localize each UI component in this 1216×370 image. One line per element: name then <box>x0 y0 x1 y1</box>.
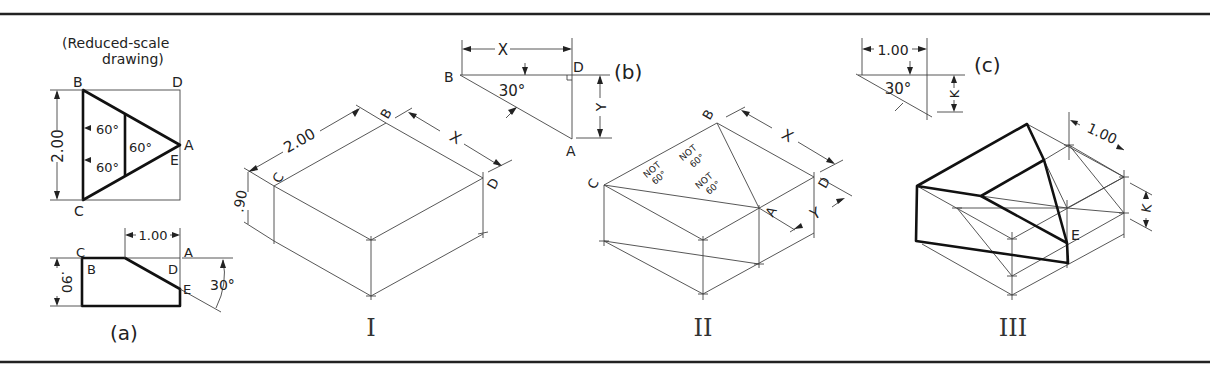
top-view: 2.00 B D A E C 60° 60° 60° <box>49 74 194 219</box>
label-A: A <box>184 137 194 153</box>
angle-label-3: 60° <box>129 140 152 155</box>
x-dim-label-b: X <box>498 41 508 59</box>
angle-label-2: 60° <box>96 160 119 175</box>
caption-c: (c) <box>974 53 1001 77</box>
note-line-2: drawing) <box>102 51 164 67</box>
label-B-b: B <box>444 69 454 85</box>
figure-II: NOT 60° NOT 60° NOT 60° X Y B C D A II <box>584 107 852 342</box>
caption-a: (a) <box>110 321 138 345</box>
height-dim-label: 2.00 <box>49 129 67 162</box>
width-dim-label-c: 1.00 <box>877 42 908 58</box>
angle-label-c: 30° <box>885 80 912 98</box>
label-C-I: C <box>269 170 287 185</box>
inner-edge-top <box>917 160 1044 196</box>
caption-III: III <box>999 314 1027 342</box>
label-D-II: D <box>815 175 833 191</box>
side-outline <box>82 258 180 306</box>
y-dim-label-II: Y <box>806 203 825 224</box>
caption-b: (b) <box>614 60 642 84</box>
label-D: D <box>172 74 183 90</box>
label-E-III: E <box>1071 227 1080 243</box>
panel-a: (Reduced-scale drawing) 2.00 B D A E C 6… <box>49 35 235 345</box>
side-label-B: B <box>87 262 96 277</box>
k-dim-label-c: K <box>947 89 962 98</box>
width-dim-label-III: 1.00 <box>1085 120 1120 148</box>
length-dim-label-I: 2.00 <box>281 125 319 157</box>
figure-III: 1.00 K E III <box>916 112 1155 342</box>
angle-label-b: 30° <box>499 82 526 100</box>
x-dim-label-II: X <box>779 125 797 146</box>
width-dim-label: 1.00 <box>139 228 168 243</box>
side-label-C: C <box>76 245 85 260</box>
isometric-construction-figure: (Reduced-scale drawing) 2.00 B D A E C 6… <box>0 0 1216 370</box>
y-dim-label-b: Y <box>593 102 609 112</box>
figure-I: 2.00 .90 X B C D I <box>230 105 512 342</box>
side-view: 1.00 .90 30° C A B D E <box>50 228 235 312</box>
side-label-D: D <box>168 262 178 277</box>
side-label-E: E <box>183 282 191 297</box>
side-label-A: A <box>184 245 193 260</box>
height-dim-label-I: .90 <box>230 189 250 214</box>
depth-dim-label: .90 <box>59 271 75 293</box>
angle-label-1: 60° <box>96 122 119 137</box>
panel-b: X Y 30° B D A (b) <box>444 38 642 159</box>
label-C-II: C <box>584 176 602 191</box>
label-B-II: B <box>699 107 716 122</box>
x-dim-label-I: X <box>447 127 465 148</box>
label-E: E <box>170 152 179 168</box>
caption-II: II <box>694 314 713 342</box>
bevel-angle-label: 30° <box>210 277 235 293</box>
inner-edge-bevel <box>981 196 1067 243</box>
object-outline <box>916 124 1068 263</box>
label-B: B <box>73 74 83 90</box>
label-A-II: A <box>762 204 779 219</box>
label-D-I: D <box>484 176 502 192</box>
panel-c: 1.00 K 30° (c) <box>856 38 1001 120</box>
k-dim-label-III: K <box>1138 202 1154 213</box>
note-line-1: (Reduced-scale <box>62 35 169 51</box>
label-C: C <box>74 203 84 219</box>
caption-I: I <box>366 314 375 342</box>
label-A-b: A <box>566 143 576 159</box>
label-D-b: D <box>573 59 584 75</box>
